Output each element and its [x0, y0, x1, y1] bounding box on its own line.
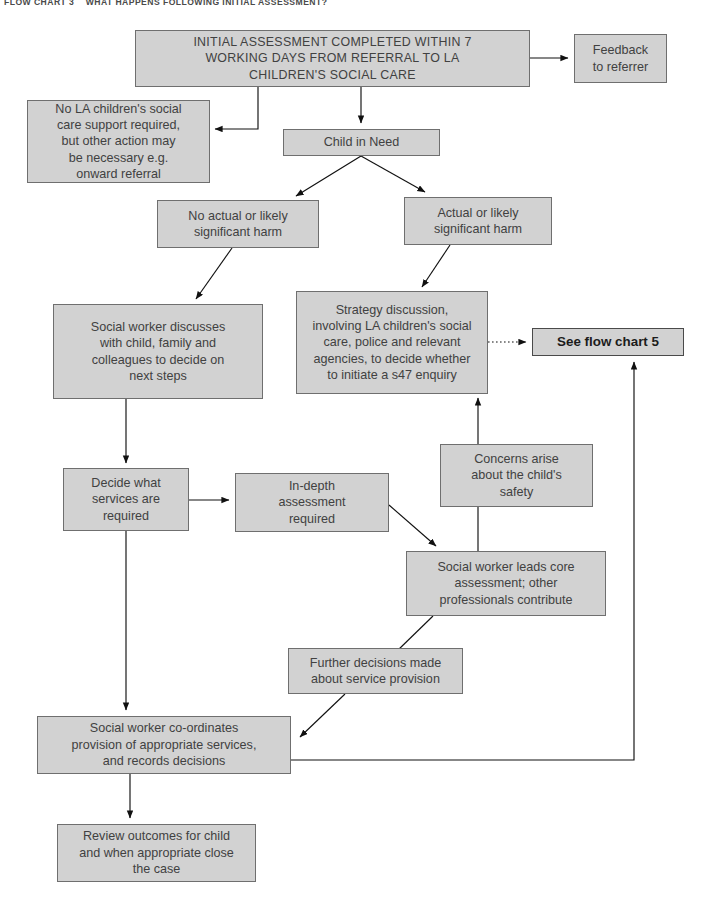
node-actual-significant-harm[interactable]: Actual or likely significant harm	[404, 197, 552, 245]
node-further-decisions[interactable]: Further decisions made about service pro…	[288, 648, 463, 694]
node-core-assessment-label: Social worker leads core assessment; oth…	[433, 559, 578, 608]
edge-noharm-to-swdiscusses	[196, 248, 232, 299]
edge-cin-to-harm	[361, 156, 425, 192]
node-no-support-required-label: No LA children's social care support req…	[51, 101, 185, 183]
node-see-flow-chart-5[interactable]: See flow chart 5	[532, 328, 684, 356]
node-no-significant-harm[interactable]: No actual or likely significant harm	[157, 200, 319, 248]
edge-further-to-coordinates	[300, 694, 345, 737]
node-decide-services[interactable]: Decide what services are required	[63, 468, 189, 531]
flowchart-canvas: FLOW CHART 3 WHAT HAPPENS FOLLOWING INIT…	[0, 0, 715, 909]
node-in-depth-assessment[interactable]: In-depth assessment required	[235, 473, 389, 532]
node-child-in-need-label: Child in Need	[320, 134, 404, 150]
node-feedback-to-referrer-label: Feedback to referrer	[589, 42, 652, 75]
node-no-significant-harm-label: No actual or likely significant harm	[184, 208, 291, 241]
node-decide-services-label: Decide what services are required	[87, 475, 164, 524]
node-coordinates-provision-label: Social worker co-ordinates provision of …	[68, 720, 261, 769]
node-child-in-need[interactable]: Child in Need	[283, 129, 440, 156]
node-initial-assessment[interactable]: INITIAL ASSESSMENT COMPLETED WITHIN 7 WO…	[135, 30, 530, 87]
node-see-flow-chart-5-label: See flow chart 5	[553, 333, 663, 350]
node-no-support-required[interactable]: No LA children's social care support req…	[27, 100, 210, 183]
edge-initial-to-nosupport	[215, 87, 258, 129]
node-further-decisions-label: Further decisions made about service pro…	[306, 655, 446, 688]
node-actual-significant-harm-label: Actual or likely significant harm	[430, 205, 526, 238]
node-review-outcomes[interactable]: Review outcomes for child and when appro…	[57, 824, 256, 882]
node-social-worker-discusses[interactable]: Social worker discusses with child, fami…	[53, 304, 263, 399]
edge-indepth-to-core	[389, 505, 436, 546]
page-title: FLOW CHART 3 WHAT HAPPENS FOLLOWING INIT…	[4, 0, 644, 9]
edge-cin-to-noharm	[296, 156, 361, 196]
node-social-worker-discusses-label: Social worker discusses with child, fami…	[87, 319, 229, 384]
node-review-outcomes-label: Review outcomes for child and when appro…	[75, 828, 238, 877]
node-in-depth-assessment-label: In-depth assessment required	[274, 478, 349, 527]
node-strategy-discussion-label: Strategy discussion, involving LA childr…	[308, 302, 475, 384]
edge-harm-to-strategy	[422, 245, 450, 287]
node-core-assessment[interactable]: Social worker leads core assessment; oth…	[406, 551, 606, 616]
node-concerns-arise-label: Concerns arise about the child's safety	[467, 451, 566, 500]
node-coordinates-provision[interactable]: Social worker co-ordinates provision of …	[37, 716, 291, 774]
node-feedback-to-referrer[interactable]: Feedback to referrer	[574, 34, 667, 83]
node-initial-assessment-label: INITIAL ASSESSMENT COMPLETED WITHIN 7 WO…	[189, 34, 475, 82]
edge-core-to-further	[396, 616, 433, 652]
node-concerns-arise[interactable]: Concerns arise about the child's safety	[440, 444, 593, 507]
node-strategy-discussion[interactable]: Strategy discussion, involving LA childr…	[296, 291, 488, 394]
